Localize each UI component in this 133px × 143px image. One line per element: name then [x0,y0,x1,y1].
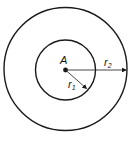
concentric-circles-diagram: A r2 r1 [0,0,133,143]
r1-label: r1 [68,78,76,91]
center-label: A [59,54,67,66]
center-point-a [63,68,68,73]
r2-label: r2 [104,56,112,69]
